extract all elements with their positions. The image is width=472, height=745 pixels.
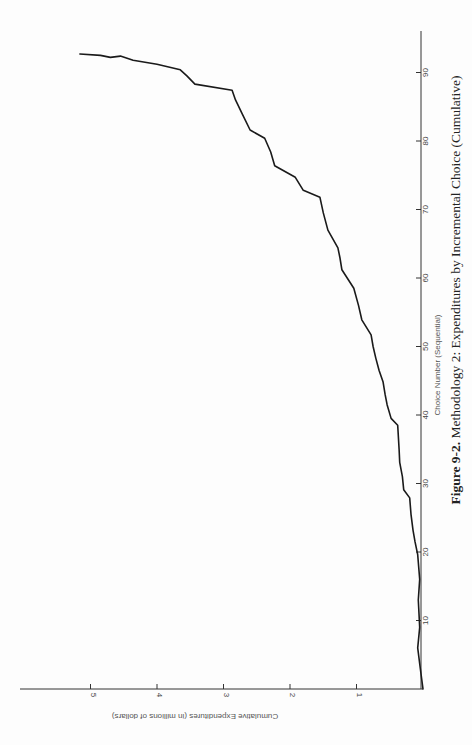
cumulative-expenditure-line <box>80 54 423 689</box>
x-tick-label: 20 <box>421 547 430 556</box>
y-tick-label: 3 <box>222 693 231 698</box>
x-tick-label: 90 <box>421 68 430 77</box>
y-axis-title: Cumulative Expenditures (in millions of … <box>112 712 279 721</box>
scanned-page: 102030405060708090 12345 Choice Number (… <box>0 0 472 745</box>
y-axis-ticks: 12345 <box>89 684 364 698</box>
x-tick-label: 70 <box>421 205 430 214</box>
y-tick-label: 1 <box>355 693 364 698</box>
x-tick-label: 60 <box>421 273 430 282</box>
y-tick-label: 2 <box>288 693 297 698</box>
y-tick-label: 4 <box>155 693 164 698</box>
x-axis-title: Choice Number (Sequential) <box>433 314 442 415</box>
x-tick-label: 40 <box>421 410 430 419</box>
x-axis-ticks: 102030405060708090 <box>416 68 430 625</box>
figure-caption: Figure 9-2. Methodology 2: Expenditures … <box>448 75 463 504</box>
y-tick-label: 5 <box>89 693 98 698</box>
figure-caption-text: Methodology 2: Expenditures by Increment… <box>448 75 463 441</box>
x-tick-label: 80 <box>421 136 430 145</box>
cumulative-expenditure-chart: 102030405060708090 12345 Choice Number (… <box>0 0 472 745</box>
x-tick-label: 50 <box>421 342 430 351</box>
x-tick-label: 10 <box>421 616 430 625</box>
figure-label: Figure 9-2. <box>448 442 463 505</box>
x-tick-label: 30 <box>421 479 430 488</box>
plot-area: 102030405060708090 12345 <box>20 31 430 698</box>
